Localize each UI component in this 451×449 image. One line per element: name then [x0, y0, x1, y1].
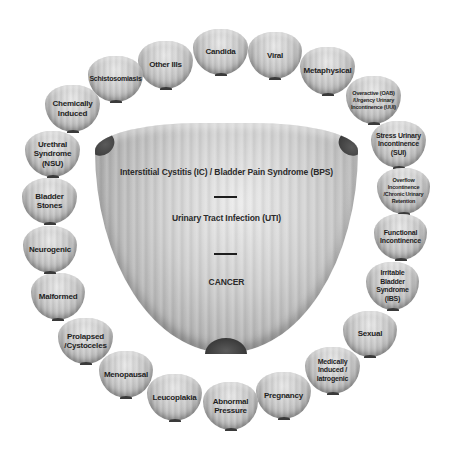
- bubble-other-ills: Other Ills: [138, 41, 193, 89]
- bubble-chemically-induced: Chemically Induced: [45, 85, 100, 132]
- bubble-label: Overactive (OAB) /Urgency Urinary Incont…: [349, 90, 398, 111]
- bubble-label: Schistosomiasis: [89, 75, 141, 84]
- bubble-label: Abnormal Pressure: [206, 397, 255, 416]
- bubble-label: Pregnancy: [264, 391, 303, 401]
- bubble-label: Viral: [267, 51, 283, 61]
- bubble-menopausal: Menopausal: [99, 351, 153, 398]
- center-label-uti: Urinary Tract Infection (UTI): [95, 213, 358, 223]
- center-divider: [214, 196, 237, 198]
- bubble-functional-incontinence: Functional Incontinence: [374, 214, 427, 260]
- left-ureter-opening: [95, 128, 119, 161]
- bubble-label: Functional Incontinence: [377, 229, 424, 246]
- bubble-label: Stress Urinary Incontinence (SUI): [374, 132, 423, 158]
- bubble-urethral-syndrome: Urethral Syndrome (NSU): [25, 131, 80, 177]
- bubble-candida: Candida: [193, 29, 248, 75]
- center-label-ic-bps: Interstitial Cystitis (IC) / Bladder Pai…: [95, 167, 358, 177]
- bubble-label: Bladder Stones: [25, 192, 74, 211]
- bubble-label: Candida: [205, 47, 235, 57]
- bubble-label: Prolapsed /Cystoceles: [61, 332, 110, 351]
- bubble-leucoplakia: Leucoplakia: [147, 374, 202, 421]
- bubble-stress-urinary-incontinence: Stress Urinary Incontinence (SUI): [371, 121, 426, 168]
- center-label-cancer: CANCER: [95, 277, 358, 287]
- center-divider: [214, 253, 237, 255]
- bubble-malformed: Malformed: [31, 273, 85, 320]
- bubble-label: Metaphysical: [304, 66, 352, 76]
- bubble-label: Malformed: [39, 292, 78, 302]
- bubble-viral: Viral: [248, 32, 302, 79]
- bubble-overactive-oab: Overactive (OAB) /Urgency Urinary Incont…: [346, 76, 401, 124]
- bubble-medically-induced: Medically Induced / Iatrogenic: [305, 347, 360, 394]
- bubble-sexual: Sexual: [343, 311, 397, 357]
- bubble-abnormal-pressure: Abnormal Pressure: [203, 382, 258, 430]
- bubble-bladder-stones: Bladder Stones: [22, 178, 77, 224]
- central-bladder: [95, 123, 358, 353]
- bubble-label: Sexual: [358, 329, 383, 339]
- bubble-label: Medically Induced / Iatrogenic: [308, 358, 357, 384]
- bubble-label: Chemically Induced: [48, 99, 97, 118]
- bubble-label: Menopausal: [104, 370, 148, 380]
- bubble-irritable-bladder-syndrome: Irritable Bladder Syndrome (IBS): [366, 262, 419, 310]
- bladder-conditions-diagram: Interstitial Cystitis (IC) / Bladder Pai…: [0, 0, 451, 449]
- bubble-label: Urethral Syndrome (NSU): [28, 140, 77, 169]
- bubble-pregnancy: Pregnancy: [256, 372, 311, 419]
- bubble-label: Neurogenic: [29, 245, 71, 255]
- bubble-label: Irritable Bladder Syndrome (IBS): [369, 269, 416, 303]
- bubble-overflow-incontinence: Overflow Incontinence /Chronic Urinary R…: [377, 168, 430, 214]
- bubble-label: Overflow Incontinence /Chronic Urinary R…: [380, 177, 427, 205]
- bubble-neurogenic: Neurogenic: [23, 226, 77, 273]
- bubble-label: Leucoplakia: [152, 393, 196, 403]
- right-ureter-opening: [334, 128, 358, 161]
- bubble-label: Other Ills: [149, 60, 182, 70]
